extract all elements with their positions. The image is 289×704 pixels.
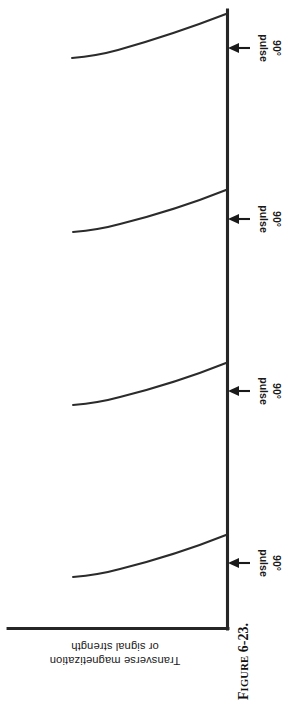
pulse-annotation-1: 90° pulse bbox=[249, 20, 283, 76]
decay-curve-3 bbox=[73, 363, 226, 405]
figure-caption-number: 6-23. bbox=[236, 623, 251, 656]
decay-curve-1 bbox=[72, 14, 226, 58]
pulse-annotation-1-line1: 90° bbox=[270, 20, 283, 76]
pulse-annotation-1-line2: pulse bbox=[258, 20, 271, 76]
figure-page: 90° pulse 90° pulse 90° pulse 90° pulse … bbox=[0, 0, 289, 704]
pulse-annotation-2-line1: 90° bbox=[270, 191, 283, 247]
pulse-annotation-3: 90° pulse bbox=[249, 363, 283, 419]
figure-caption: FIGURE 6-23. bbox=[236, 636, 252, 700]
pulse-annotation-2: 90° pulse bbox=[249, 191, 283, 247]
pulse-annotation-4-line1: 90° bbox=[270, 535, 283, 591]
decay-curve-2 bbox=[73, 190, 226, 232]
y-axis-label-line1: Transverse magnetization bbox=[12, 654, 218, 668]
pulse-annotation-4: 90° pulse bbox=[249, 535, 283, 591]
pulse-arrow-1 bbox=[228, 43, 250, 53]
y-axis-label: Transverse magnetization or signal stren… bbox=[12, 640, 218, 667]
figure-caption-lead: F bbox=[236, 691, 251, 700]
y-axis-label-line2: or signal strength bbox=[12, 640, 218, 654]
pulse-annotation-2-line2: pulse bbox=[258, 191, 271, 247]
pulse-annotation-3-line2: pulse bbox=[258, 363, 271, 419]
pulse-arrow-3 bbox=[228, 386, 250, 396]
pulse-arrow-2 bbox=[228, 214, 250, 224]
plot-area bbox=[0, 0, 289, 704]
pulse-arrow-4 bbox=[228, 558, 250, 568]
decay-curve-4 bbox=[73, 535, 226, 577]
figure-caption-word: IGURE bbox=[239, 656, 250, 692]
pulse-annotation-3-line1: 90° bbox=[270, 363, 283, 419]
pulse-annotation-4-line2: pulse bbox=[258, 535, 271, 591]
